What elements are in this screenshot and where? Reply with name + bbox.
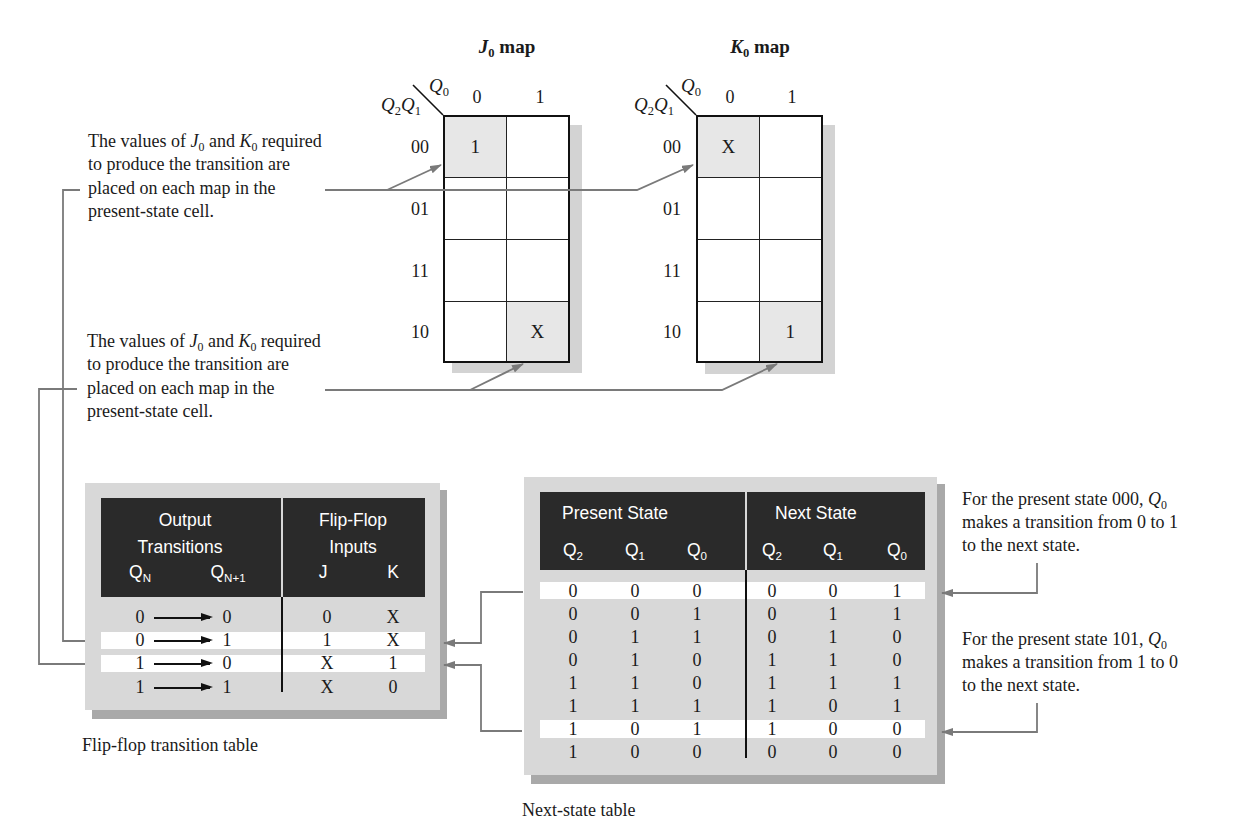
cell: 1 xyxy=(693,718,702,740)
cell: 1 xyxy=(829,649,838,671)
sub: 0 xyxy=(701,550,707,562)
text: required xyxy=(256,331,320,351)
j0-row-label-00: 00 xyxy=(411,136,429,158)
note-line: present-state cell. xyxy=(87,400,321,423)
k0-cell-01-1 xyxy=(760,178,822,240)
k0-col-variable: Q0 xyxy=(681,75,701,97)
var: Q xyxy=(1148,489,1161,509)
sub: N+1 xyxy=(224,572,246,584)
cell-k: 0 xyxy=(389,676,398,698)
header-k: K xyxy=(387,561,399,583)
var: K xyxy=(239,131,251,151)
sub: 1 xyxy=(639,550,645,562)
cell-qn1: 0 xyxy=(223,606,232,628)
j0-cell-00-1 xyxy=(507,117,569,178)
k0-cell-11-0 xyxy=(698,240,760,302)
right-arrow-icon xyxy=(154,640,210,642)
cell: 0 xyxy=(829,580,838,602)
header-next-q0: Q0 xyxy=(887,539,907,561)
var: Q xyxy=(634,94,648,115)
cell: 0 xyxy=(631,741,640,763)
cell-qn: 1 xyxy=(136,652,145,674)
k0-cell-10-1: 1 xyxy=(760,302,822,361)
j0-col-label-0: 0 xyxy=(473,86,482,108)
header-inputs: Inputs xyxy=(329,536,377,558)
flipflop-row: 1 1 X 0 xyxy=(101,676,425,698)
note-top-left: The values of J0 and K0 required to prod… xyxy=(88,130,322,223)
cell: 1 xyxy=(569,741,578,763)
cell: 1 xyxy=(768,672,777,694)
cell: 1 xyxy=(829,603,838,625)
k0-row-label-01: 01 xyxy=(663,198,681,220)
cell: 1 xyxy=(768,695,777,717)
var: K xyxy=(238,331,250,351)
header-flip-flop: Flip-Flop xyxy=(319,509,387,531)
var: Q xyxy=(687,540,701,560)
cell: 0 xyxy=(693,741,702,763)
cell-j: X xyxy=(321,652,334,674)
cell-k: X xyxy=(387,606,400,628)
sub: 2 xyxy=(776,550,782,562)
cell: 1 xyxy=(768,718,777,740)
sub: 1 xyxy=(837,550,843,562)
note-line: makes a transition from 1 to 0 xyxy=(962,651,1178,674)
var: Q xyxy=(654,94,668,115)
title-suffix: map xyxy=(749,36,790,57)
var: Q xyxy=(210,562,224,582)
connector-line-note-to-row-0-1 xyxy=(63,190,85,641)
cell: 1 xyxy=(631,649,640,671)
var: Q xyxy=(823,540,837,560)
k0-row-label-10: 10 xyxy=(663,321,681,343)
note-line: placed on each map in the xyxy=(88,177,322,200)
next-state-row: 0 0 1 0 1 1 xyxy=(540,603,925,625)
k0-map-title: K0 map xyxy=(730,36,790,58)
var: Q xyxy=(681,75,695,96)
cell-k: X xyxy=(387,629,400,651)
j0-col-variable: Q0 xyxy=(429,75,449,97)
connector-arrow-row-101-to-1-0 xyxy=(444,665,522,731)
text: For the present state 000, xyxy=(962,489,1148,509)
cell: 1 xyxy=(768,649,777,671)
cell-qn: 0 xyxy=(136,629,145,651)
connector-arrow-row-000-to-0-1 xyxy=(444,592,523,643)
cell: 0 xyxy=(631,603,640,625)
header-next-state: Next State xyxy=(775,502,857,524)
connector-arrow-note-to-row-000 xyxy=(942,563,1037,593)
next-state-table-caption: Next-state table xyxy=(522,799,635,821)
cell: 0 xyxy=(768,580,777,602)
var: Q xyxy=(625,540,639,560)
var: Q xyxy=(129,562,143,582)
j0-row-label-11: 11 xyxy=(411,260,428,282)
cell: 1 xyxy=(893,580,902,602)
header-j: J xyxy=(319,561,328,583)
j0-cell-11-0 xyxy=(445,240,507,302)
j0-cell-10-1: X xyxy=(507,302,569,361)
k0-row-variables: Q2Q1 xyxy=(634,94,674,116)
sub: 1 xyxy=(668,104,674,118)
header-divider xyxy=(281,498,283,597)
sub: 0 xyxy=(1161,638,1167,652)
next-state-row: 1 0 0 0 0 0 xyxy=(540,741,925,763)
flipflop-table-header: Output Transitions QN QN+1 Flip-Flop Inp… xyxy=(101,498,425,597)
text: For the present state 101, xyxy=(962,629,1148,649)
var: Q xyxy=(762,540,776,560)
k0-cell-11-1 xyxy=(760,240,822,302)
note-line: to produce the transition are xyxy=(87,353,321,376)
k0-karnaugh-map: X 1 xyxy=(696,115,823,363)
header-present-state: Present State xyxy=(562,502,668,524)
sub: 2 xyxy=(577,550,583,562)
cell-j: X xyxy=(321,676,334,698)
sub: 1 xyxy=(415,104,421,118)
cell: 0 xyxy=(893,718,902,740)
cell: 0 xyxy=(893,626,902,648)
var: Q xyxy=(563,540,577,560)
cell: 0 xyxy=(768,741,777,763)
cell: 0 xyxy=(693,672,702,694)
cell: 0 xyxy=(693,649,702,671)
var: Q xyxy=(381,94,395,115)
cell: 1 xyxy=(631,695,640,717)
cell: 0 xyxy=(768,626,777,648)
flipflop-table-caption: Flip-flop transition table xyxy=(82,734,258,756)
note-right-bottom: For the present state 101, Q0 makes a tr… xyxy=(962,628,1178,697)
cell: 0 xyxy=(829,718,838,740)
